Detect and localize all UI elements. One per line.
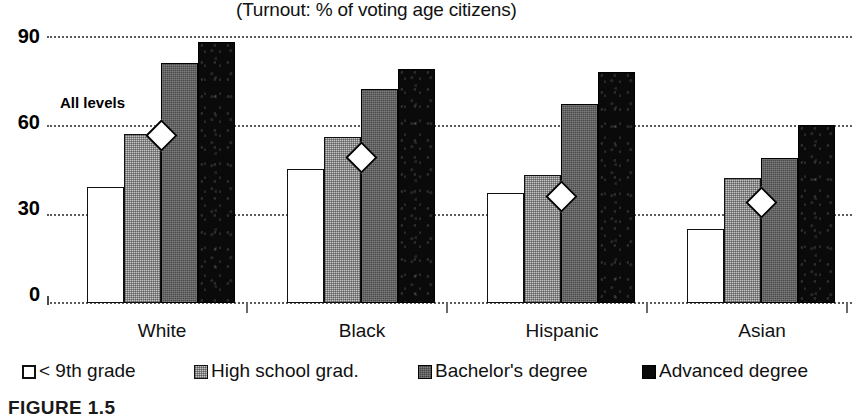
x-axis-tick-3 bbox=[646, 303, 648, 313]
bar-group-black bbox=[287, 36, 437, 303]
figure-caption: FIGURE 1.5 bbox=[8, 397, 115, 418]
bar-hispanic-less-9th-grade[interactable] bbox=[487, 193, 524, 303]
legend-label-less-9th-grade: < 9th grade bbox=[39, 360, 136, 382]
x-label-white: White bbox=[87, 320, 237, 342]
bar-asian-advanced-degree[interactable] bbox=[798, 125, 835, 303]
legend-item-bachelors-degree[interactable]: Bachelor's degree bbox=[418, 360, 588, 382]
legend-label-bachelors-degree: Bachelor's degree bbox=[435, 360, 588, 382]
legend-item-advanced-degree[interactable]: Advanced degree bbox=[642, 360, 808, 382]
legend-label-advanced-degree: Advanced degree bbox=[659, 360, 808, 382]
x-label-asian: Asian bbox=[687, 320, 837, 342]
legend-swatch-black-square-icon bbox=[642, 365, 656, 379]
x-axis-tick-2 bbox=[446, 303, 448, 313]
plot-area bbox=[47, 36, 852, 303]
bar-asian-less-9th-grade[interactable] bbox=[687, 229, 724, 303]
y-tick-label-0: 0 bbox=[4, 284, 40, 304]
legend-item-high-school-grad[interactable]: High school grad. bbox=[194, 360, 359, 382]
bar-black-advanced-degree[interactable] bbox=[398, 69, 435, 303]
bar-hispanic-advanced-degree[interactable] bbox=[598, 72, 635, 303]
bar-white-less-9th-grade[interactable] bbox=[87, 187, 124, 303]
bar-group-asian bbox=[687, 36, 837, 303]
bar-white-advanced-degree[interactable] bbox=[198, 42, 235, 303]
y-axis: 90 60 30 0 bbox=[0, 36, 40, 303]
legend-swatch-light-gray-square-icon bbox=[194, 365, 208, 379]
x-axis-tick-1 bbox=[246, 303, 248, 313]
bar-black-less-9th-grade[interactable] bbox=[287, 169, 324, 303]
bar-group-white bbox=[87, 36, 237, 303]
chart-title: (Turnout: % of voting age citizens) bbox=[236, 0, 517, 21]
legend-swatch-dark-gray-square-icon bbox=[418, 365, 432, 379]
legend-label-high-school-grad: High school grad. bbox=[211, 360, 359, 382]
bar-white-high-school-grad[interactable] bbox=[124, 134, 161, 303]
legend-item-less-9th-grade[interactable]: < 9th grade bbox=[22, 360, 136, 382]
y-tick-label-90: 90 bbox=[4, 26, 40, 46]
y-tick-label-30: 30 bbox=[4, 198, 40, 218]
x-label-hispanic: Hispanic bbox=[487, 320, 637, 342]
chart-legend: < 9th grade High school grad. Bachelor's… bbox=[0, 360, 863, 388]
x-label-black: Black bbox=[287, 320, 437, 342]
bar-white-bachelors-degree[interactable] bbox=[161, 63, 198, 303]
legend-swatch-open-square-icon bbox=[22, 365, 36, 379]
bar-asian-bachelors-degree[interactable] bbox=[761, 158, 798, 303]
bar-black-bachelors-degree[interactable] bbox=[361, 89, 398, 303]
y-tick-label-60: 60 bbox=[4, 112, 40, 132]
x-axis-tick-4 bbox=[846, 303, 848, 313]
bar-group-hispanic bbox=[487, 36, 637, 303]
y-axis-stub bbox=[47, 296, 49, 305]
